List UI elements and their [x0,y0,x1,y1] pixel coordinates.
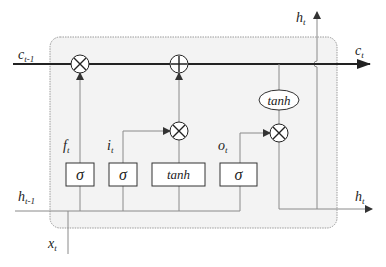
h-top-label: ht [296,10,306,27]
c-out-label: ct [355,43,364,60]
cell-tanh-label: tanh [267,93,290,108]
output-gate-sigma: σ [235,166,244,183]
lstm-diagram: tanh σ σ tanh σ ct-1 ct ht ht ht-1 xt ft… [0,0,386,267]
c-prev-label: ct-1 [18,47,34,64]
input-multiply-icon [170,122,188,140]
x-input-label: xt [47,236,57,253]
add-icon [170,55,188,73]
output-multiply-icon [270,124,288,142]
cell-boundary [50,37,337,228]
h-prev-label: ht-1 [18,189,35,206]
input-gate-sigma: σ [119,166,128,183]
candidate-tanh-label: tanh [167,167,190,182]
forget-gate-sigma: σ [76,166,85,183]
h-right-label: ht [355,189,365,206]
forget-multiply-icon [71,55,89,73]
